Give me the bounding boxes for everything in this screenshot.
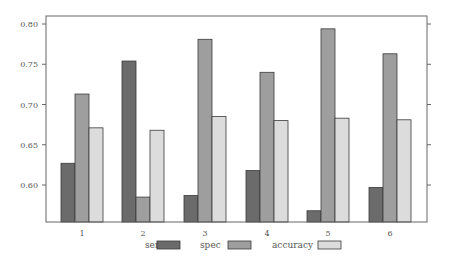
y-tick-label: 0.80 (20, 20, 38, 29)
x-tick-label: 6 (387, 229, 392, 238)
y-tick-label: 0.70 (20, 101, 38, 110)
y-axis-left: 0.600.650.700.750.80 (20, 20, 46, 190)
y-tick-label: 0.75 (20, 60, 38, 69)
bar-spec-4 (260, 72, 274, 222)
legend-label-spec: spec (200, 240, 221, 250)
legend: sensspecaccuracy (145, 240, 341, 250)
legend-swatch-sens (157, 241, 180, 249)
bar-spec-6 (383, 54, 397, 222)
bar-spec-1 (75, 94, 89, 222)
x-axis: 123456 (79, 229, 392, 238)
bar-accuracy-5 (335, 118, 349, 222)
y-tick-label: 0.60 (20, 181, 38, 190)
bar-accuracy-1 (89, 128, 103, 222)
bar-sens-2 (122, 61, 136, 222)
bar-accuracy-4 (274, 121, 288, 222)
bar-sens-1 (61, 163, 75, 222)
legend-label-accuracy: accuracy (272, 240, 314, 250)
bar-spec-5 (321, 29, 335, 222)
y-axis-right (427, 24, 431, 185)
y-tick-label: 0.65 (20, 141, 38, 150)
bar-spec-3 (198, 39, 212, 222)
bar-accuracy-2 (150, 130, 164, 222)
bars-layer (61, 29, 411, 222)
grouped-bar-chart: 0.600.650.700.750.80 123456 sensspecaccu… (0, 0, 452, 265)
bar-sens-5 (307, 211, 321, 222)
x-tick-label: 4 (264, 229, 269, 238)
bar-accuracy-6 (397, 120, 411, 222)
legend-swatch-spec (228, 241, 251, 249)
x-tick-label: 2 (140, 229, 145, 238)
bar-accuracy-3 (212, 117, 226, 222)
x-tick-label: 3 (202, 229, 207, 238)
x-tick-label: 5 (325, 229, 330, 238)
legend-swatch-accuracy (318, 241, 341, 249)
bar-sens-6 (369, 187, 383, 222)
bar-spec-2 (136, 197, 150, 222)
bar-sens-4 (246, 171, 260, 222)
bar-sens-3 (184, 195, 198, 222)
x-tick-label: 1 (79, 229, 84, 238)
